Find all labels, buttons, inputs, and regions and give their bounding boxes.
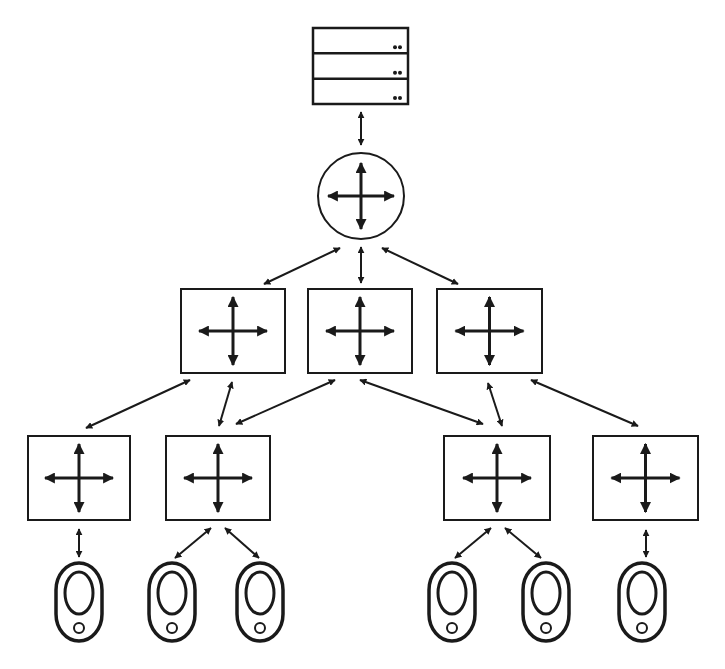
link-acc-2-dev-2 — [175, 528, 211, 558]
device-body-icon — [56, 563, 102, 641]
link-dist-2-acc-2 — [236, 380, 335, 424]
device-body-icon — [237, 563, 283, 641]
end-device-dev-5[interactable] — [523, 563, 569, 641]
end-device-dev-1[interactable] — [56, 563, 102, 641]
distribution-switch-dist-2[interactable] — [308, 289, 412, 373]
network-diagram — [0, 0, 725, 669]
access-switch-acc-3[interactable] — [444, 436, 550, 520]
link-router-dist-1 — [264, 248, 340, 284]
status-led-icon — [393, 96, 397, 100]
distribution-switch-dist-1[interactable] — [181, 289, 285, 373]
distribution-switch-dist-3[interactable] — [437, 289, 542, 373]
link-dist-2-acc-3 — [360, 380, 483, 424]
link-acc-2-dev-3 — [225, 528, 259, 558]
access-switch-acc-4[interactable] — [593, 436, 698, 520]
link-acc-3-dev-4 — [455, 528, 491, 558]
device-body-icon — [149, 563, 195, 641]
router[interactable] — [318, 153, 404, 239]
status-led-icon — [398, 71, 402, 75]
link-router-dist-3 — [382, 248, 458, 284]
access-switch-acc-2[interactable] — [166, 436, 270, 520]
device-body-icon — [429, 563, 475, 641]
status-led-icon — [393, 71, 397, 75]
status-led-icon — [393, 45, 397, 49]
end-device-dev-4[interactable] — [429, 563, 475, 641]
link-dist-1-acc-1 — [86, 380, 190, 428]
device-body-icon — [619, 563, 665, 641]
status-led-icon — [398, 96, 402, 100]
device-body-icon — [523, 563, 569, 641]
end-device-dev-2[interactable] — [149, 563, 195, 641]
link-acc-3-dev-5 — [505, 528, 541, 558]
end-device-dev-6[interactable] — [619, 563, 665, 641]
server-rack[interactable] — [313, 28, 408, 104]
nodes-layer — [28, 28, 698, 641]
access-switch-acc-1[interactable] — [28, 436, 130, 520]
link-dist-3-acc-4 — [531, 380, 638, 426]
end-device-dev-3[interactable] — [237, 563, 283, 641]
link-dist-1-acc-2 — [219, 382, 232, 426]
status-led-icon — [398, 45, 402, 49]
link-dist-3-acc-3 — [488, 383, 502, 426]
